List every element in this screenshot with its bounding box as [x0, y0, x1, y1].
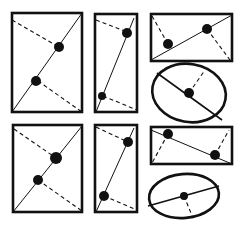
solid-line [151, 15, 232, 60]
dot-marker [210, 150, 220, 160]
solid-line [12, 13, 82, 112]
dot-marker [33, 175, 43, 185]
rect-top-right-figure [151, 14, 232, 61]
solid-line [13, 126, 82, 212]
dot-marker [163, 129, 173, 139]
dot-marker [31, 76, 41, 86]
rect-bottom-middle-figure [95, 125, 137, 212]
rect-top-middle-figure [95, 14, 137, 112]
dashed-line [38, 81, 82, 112]
dot-marker [163, 39, 173, 49]
rect-bottom-left-figure [13, 125, 82, 212]
diagram-canvas [0, 0, 245, 233]
rect-bottom-right-figure [151, 127, 232, 164]
dashed-line [96, 127, 128, 142]
ellipse-bottom-right-figure [147, 171, 221, 221]
dashed-line [207, 29, 230, 60]
dot-marker [98, 92, 106, 100]
ellipse-top-right-figure [148, 58, 231, 128]
geometric-figures-diagram [0, 0, 245, 233]
dashed-line [103, 96, 137, 110]
dashed-line [104, 196, 137, 210]
dot-marker [123, 137, 133, 147]
dot-marker [54, 42, 64, 52]
dot-marker [50, 152, 62, 164]
dashed-line [12, 20, 59, 47]
dot-marker [122, 28, 132, 38]
dashed-line [14, 129, 56, 158]
dot-marker [184, 88, 194, 98]
rect-top-left-figure [12, 13, 82, 112]
dot-marker [99, 191, 109, 201]
dashed-line [96, 20, 127, 32]
dot-marker [180, 192, 188, 200]
dashed-line [38, 180, 82, 211]
dot-marker [202, 24, 212, 34]
